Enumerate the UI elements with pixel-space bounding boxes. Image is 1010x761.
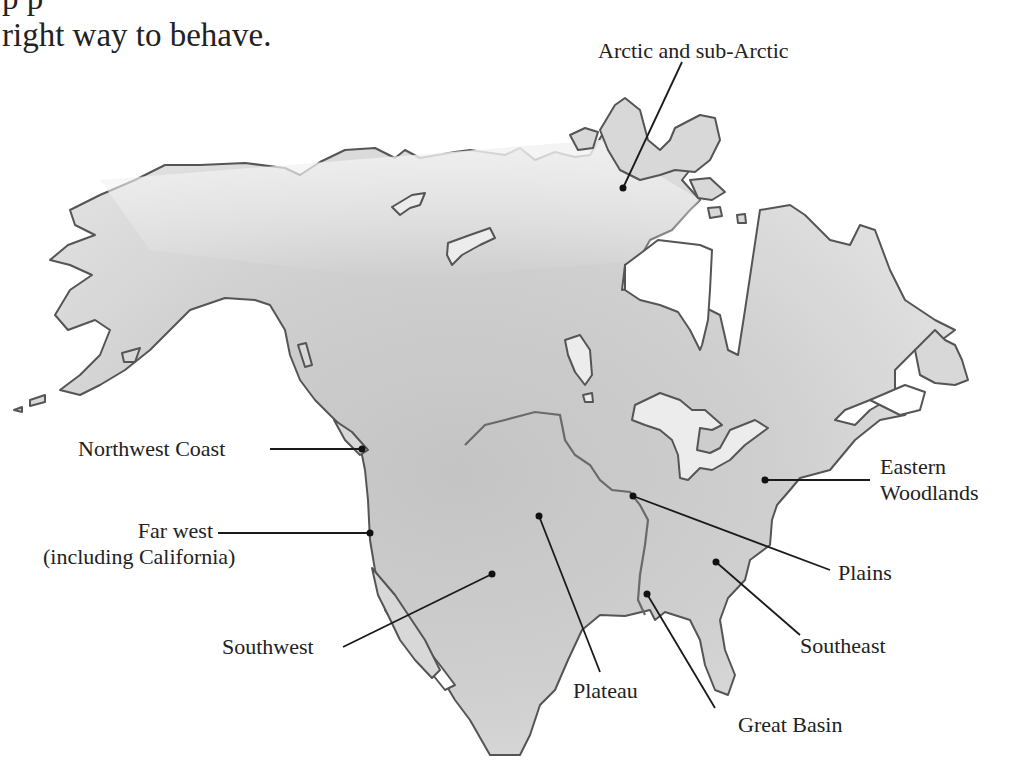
aleutian-1 <box>30 395 45 406</box>
label-southwest: Southwest <box>222 634 314 660</box>
dot-northwest-coast <box>359 446 366 453</box>
arctic-island-4 <box>737 214 746 223</box>
arctic-island-3 <box>708 207 722 218</box>
small-lake <box>583 393 593 402</box>
label-arctic: Arctic and sub-Arctic <box>598 38 789 64</box>
aleutian-2 <box>14 407 22 412</box>
label-great-basin: Great Basin <box>738 712 842 738</box>
dot-plains <box>630 493 637 500</box>
dot-southwest <box>489 571 496 578</box>
dot-eastern-woodlands <box>762 477 769 484</box>
label-far-west-line-1: Far west <box>118 518 213 544</box>
dot-southeast <box>713 559 720 566</box>
dot-arctic <box>620 185 627 192</box>
label-far-west-line-2: (including California) <box>43 544 235 570</box>
dot-far-west <box>367 530 374 537</box>
label-eastern-woodlands-line-1: Eastern <box>880 454 946 480</box>
label-plains: Plains <box>838 560 892 586</box>
dot-great-basin <box>644 591 651 598</box>
label-southeast: Southeast <box>800 633 886 659</box>
dot-plateau <box>536 513 543 520</box>
label-plateau: Plateau <box>573 678 638 704</box>
label-eastern-woodlands-line-2: Woodlands <box>880 480 978 506</box>
label-northwest-coast: Northwest Coast <box>78 436 225 462</box>
